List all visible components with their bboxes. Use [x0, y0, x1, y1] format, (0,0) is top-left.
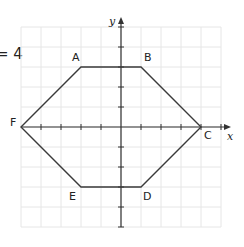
vertex-label-c: C — [204, 129, 212, 142]
x-axis-label: x — [227, 130, 234, 143]
vertex-label-b: B — [144, 51, 152, 64]
vertex-label-d: D — [143, 190, 151, 203]
y-axis-label: y — [108, 15, 116, 28]
vertex-label-e: E — [69, 190, 76, 203]
coordinate-plane-diagram: xy ABCDEF — [0, 0, 244, 247]
vertex-label-a: A — [72, 51, 80, 64]
vertex-label-f: F — [10, 116, 16, 129]
y-axis-arrow-icon — [118, 17, 124, 24]
